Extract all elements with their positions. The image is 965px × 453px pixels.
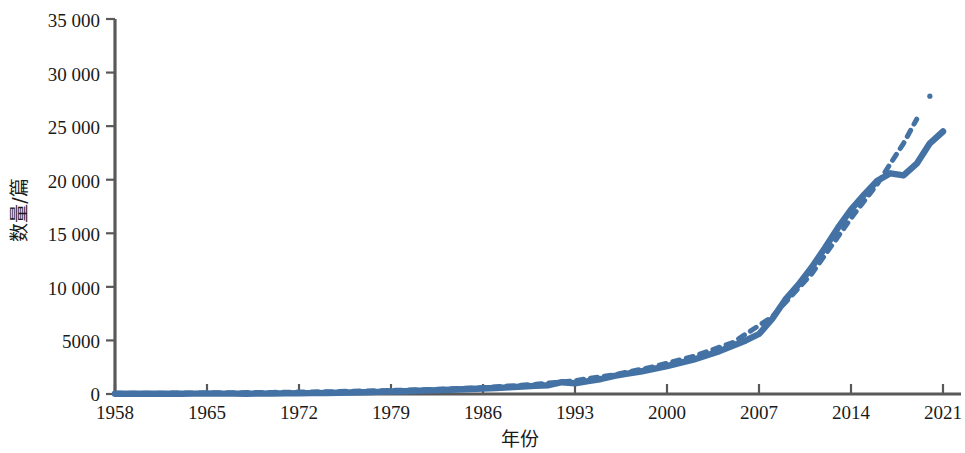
y-tick-label: 30 000	[48, 64, 100, 85]
x-tick-label: 1965	[188, 402, 226, 423]
x-tick-label: 2021	[924, 402, 962, 423]
series-trend-line	[115, 119, 917, 393]
y-tick-label: 5000	[62, 331, 100, 352]
trend-endpoint-dot	[927, 94, 932, 99]
y-tick-label: 15 000	[48, 224, 100, 245]
y-tick-label: 20 000	[48, 171, 100, 192]
plot-area	[115, 94, 943, 394]
line-chart: 数量/篇 年份 0 5000 10 000 15 000 20 000 25 0…	[0, 0, 965, 453]
x-tick-label: 1958	[96, 402, 134, 423]
series-endpoint-marker	[927, 94, 932, 99]
x-tick-label: 1972	[280, 402, 318, 423]
chart-container: 数量/篇 年份 0 5000 10 000 15 000 20 000 25 0…	[0, 0, 965, 453]
y-tick-labels: 0 5000 10 000 15 000 20 000 25 000 30 00…	[48, 10, 100, 405]
x-tick-label: 1986	[464, 402, 502, 423]
y-tick-label: 10 000	[48, 278, 100, 299]
y-tick-label: 25 000	[48, 117, 100, 138]
x-axis-title: 年份	[501, 428, 539, 450]
x-tick-label: 2007	[740, 402, 778, 423]
x-tick-label: 1993	[556, 402, 594, 423]
y-tick-label: 35 000	[48, 10, 100, 31]
x-tick-label: 2000	[648, 402, 686, 423]
x-tick-label: 2014	[832, 402, 871, 423]
axes	[106, 19, 961, 394]
x-tick-labels: 1958 1965 1972 1979 1986 1993 2000 2007 …	[96, 402, 962, 423]
y-axis-title: 数量/篇	[8, 178, 30, 241]
x-tick-label: 1979	[372, 402, 410, 423]
